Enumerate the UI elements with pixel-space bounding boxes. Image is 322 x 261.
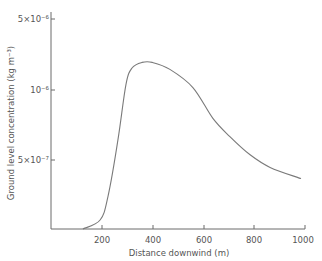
concentration-curve	[83, 62, 301, 229]
y-axis-title: Ground level concentration (kg m⁻³)	[6, 46, 16, 200]
x-axis-title: Distance downwind (m)	[129, 248, 230, 258]
x-tick-label: 400	[145, 235, 161, 245]
x-tick-label: 200	[94, 235, 110, 245]
y-tick-label: 5×10⁻⁷	[18, 155, 50, 165]
y-tick-label: 5×10⁻⁶	[18, 14, 50, 24]
chart: 5×10⁻⁶ 10⁻⁶ 5×10⁻⁷ 200 400 600 800 1000 …	[0, 0, 322, 261]
y-tick-label: 10⁻⁶	[30, 85, 49, 95]
x-tick-label: 800	[246, 235, 262, 245]
x-tick-label: 600	[196, 235, 212, 245]
x-tick-label: 1000	[292, 235, 314, 245]
